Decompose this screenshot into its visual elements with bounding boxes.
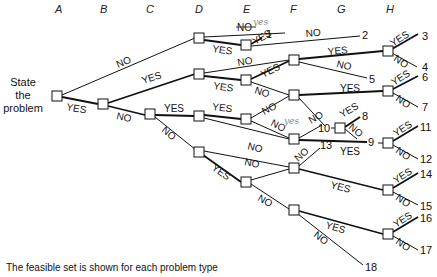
node-d3 [194,111,204,121]
outcome-14: 14 [420,168,432,180]
outcome-15: 15 [420,200,432,212]
svg-text:YES: YES [338,100,361,120]
node-f5 [289,205,299,215]
svg-text:NO: NO [114,54,132,70]
column-e: E [243,3,251,15]
outcome-2: 2 [362,29,368,41]
outcome-5: 5 [369,73,375,85]
svg-text:NO: NO [247,140,264,154]
node-e3 [241,114,251,124]
svg-text:NO: NO [253,84,271,99]
svg-text:YES: YES [212,43,234,57]
svg-text:problem: problem [3,102,43,114]
outcome-12: 12 [420,153,432,165]
outcome-13: 13 [320,139,332,151]
svg-text:NO: NO [244,156,261,170]
svg-text:NO: NO [292,145,311,163]
decision-tree: A B C D E F G H State the problem [0,0,437,277]
svg-text:NO: NO [305,27,321,39]
node-g [335,123,345,133]
column-f: F [290,3,298,15]
column-b: B [100,3,107,15]
node-h5 [383,229,393,239]
svg-text:NO: NO [312,229,331,247]
svg-text:YES: YES [140,69,163,86]
svg-text:NO: NO [392,53,411,71]
node-f4 [289,163,299,173]
svg-text:YES: YES [210,162,233,183]
column-headers: A B C D E F G H [54,3,394,15]
node-e2 [241,75,251,85]
node-h3 [383,138,393,148]
svg-text:the: the [15,89,30,101]
start-label: State the problem [3,76,43,114]
svg-text:YES: YES [340,146,360,157]
outcome-17: 17 [420,244,432,256]
outcome-10: 10 [318,122,330,134]
node-h4 [383,185,393,195]
node-h1 [383,46,393,56]
outcome-9: 9 [368,136,374,148]
column-g: G [337,3,346,15]
edges [62,33,418,265]
svg-text:NO: NO [260,100,279,117]
outcome-8: 8 [362,110,368,122]
node-f3 [289,134,299,144]
node-e1 [241,40,251,50]
column-d: D [195,3,203,15]
node-a [52,91,62,101]
svg-text:State: State [10,76,36,88]
svg-text:NO: NO [336,58,353,72]
svg-text:NO: NO [256,192,275,209]
handwritten-yes: yes [252,17,268,27]
node-d4 [194,147,204,157]
handwritten-yes-2: yes [283,116,299,126]
svg-text:YES: YES [164,103,184,114]
svg-text:YES: YES [340,83,360,94]
node-f2 [289,90,299,100]
svg-text:YES: YES [213,80,235,94]
outcome-7: 7 [422,101,428,113]
svg-text:NO: NO [237,55,254,68]
svg-text:YES: YES [212,101,233,114]
node-b [98,99,108,109]
node-d2 [194,69,204,79]
outcome-1: 1 [266,28,272,40]
outcome-6: 6 [422,71,428,83]
outcome-16: 16 [420,212,432,224]
column-a: A [54,3,62,15]
node-f1 [289,55,299,65]
node-e4 [241,177,251,187]
column-h: H [386,3,394,15]
node-c [145,109,155,119]
column-c: C [146,3,154,15]
caption: The feasible set is shown for each probl… [6,262,218,273]
svg-text:NO: NO [160,124,179,142]
svg-text:YES: YES [66,101,88,115]
outcome-18: 18 [365,261,377,273]
svg-text:YES: YES [324,219,347,235]
svg-text:YES: YES [327,44,348,57]
node-d1 [194,33,204,43]
svg-text:NO: NO [116,110,133,124]
outcome-3: 3 [422,30,428,42]
node-h2 [383,86,393,96]
outcome-11: 11 [420,121,431,133]
